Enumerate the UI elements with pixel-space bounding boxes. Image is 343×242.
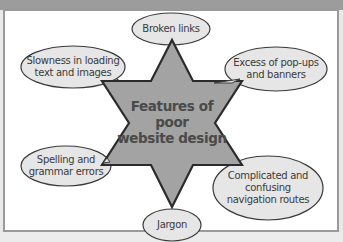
label-slowness: Slowness in loading text and images	[22, 55, 124, 79]
label-spelling: Spelling and grammar errors	[22, 154, 110, 178]
label-navigation: Complicated and confusing navigation rou…	[214, 170, 322, 206]
center-title-line: website design	[112, 130, 232, 146]
label-line: Jargon	[143, 219, 201, 231]
label-line: Broken links	[132, 23, 210, 35]
label-line: text and images	[22, 67, 124, 79]
label-line: confusing	[214, 182, 322, 194]
label-line: Complicated and	[214, 170, 322, 182]
label-line: and banners	[226, 69, 326, 81]
center-title-line: Features of	[112, 98, 232, 114]
label-line: Slowness in loading	[22, 55, 124, 67]
label-line: navigation routes	[214, 194, 322, 206]
center-title-line: poor	[112, 114, 232, 130]
label-broken-links: Broken links	[132, 23, 210, 35]
label-line: Excess of pop-ups	[226, 57, 326, 69]
label-jargon: Jargon	[143, 219, 201, 231]
label-line: Spelling and	[22, 154, 110, 166]
label-line: grammar errors	[22, 166, 110, 178]
label-popups: Excess of pop-ups and banners	[226, 57, 326, 81]
center-title: Features of poor website design	[112, 98, 232, 146]
